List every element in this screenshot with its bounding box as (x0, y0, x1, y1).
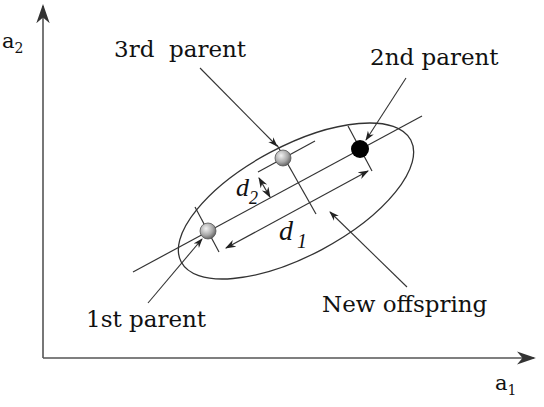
second-parent-label: 2nd parent (370, 44, 499, 70)
second-parent-callout (366, 78, 406, 140)
x-axis-label: a1 (495, 371, 516, 398)
diagram-canvas: a2 a1 d2 d1 3rd parent 2nd parent 1st pa… (0, 0, 544, 407)
y-axis-label: a2 (2, 29, 23, 56)
parent-axis-line (133, 116, 422, 272)
third-parent-label: 3rd parent (114, 36, 247, 62)
second-parent-point (351, 140, 369, 158)
first-parent-callout (148, 239, 202, 303)
offspring-ellipse (155, 91, 436, 310)
d2-label: d2 (236, 173, 258, 208)
new-offspring-label: New offspring (322, 291, 488, 317)
first-parent-point (200, 223, 216, 239)
new-offspring-callout (330, 212, 407, 287)
first-parent-label: 1st parent (86, 306, 207, 332)
third-parent-point (275, 150, 291, 166)
d2-arrow (259, 178, 270, 197)
third-parent-callout (200, 68, 277, 146)
d1-label: d1 (279, 215, 307, 252)
